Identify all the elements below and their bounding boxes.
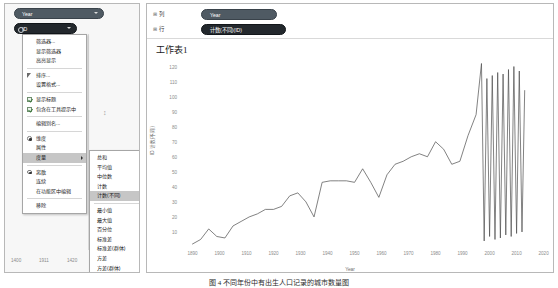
aggregation-menu-item[interactable]: 最小值 <box>90 206 140 216</box>
context-menu-item[interactable]: 包含在工具提示中 <box>23 105 86 115</box>
radio-selected-icon <box>27 136 32 141</box>
aggregation-menu-item[interactable]: 中位数 <box>90 172 140 182</box>
y-axis-tick: 70 <box>155 139 177 144</box>
x-axis-tick: 1940 <box>322 251 332 256</box>
context-menu-item[interactable]: 属性 <box>23 143 86 153</box>
menu-separator <box>27 165 82 166</box>
menu-separator <box>27 198 82 199</box>
context-menu-item-label: 包含在工具提示中 <box>36 106 76 112</box>
y-axis-tick: 40 <box>155 184 177 189</box>
context-menu-item-label: 设置格式... <box>36 81 60 87</box>
context-menu-item-label: 属性 <box>36 144 46 150</box>
aggregation-menu-item-label: 计数(不同) <box>97 192 120 198</box>
left-axis-tick: 1911 <box>39 258 49 263</box>
menu-separator <box>94 203 140 204</box>
tableau-screenshot: Year ID ↕ 筛选器...显示筛选器高亮显示排序...设置格式...显示标… <box>0 0 558 288</box>
left-panel: Year ID ↕ 筛选器...显示筛选器高亮显示排序...设置格式...显示标… <box>4 3 140 273</box>
aggregation-menu-item[interactable]: 标准差 <box>90 235 140 245</box>
aggregation-menu-item[interactable]: 方差 <box>90 254 140 264</box>
context-menu-item[interactable]: 显示标题 <box>23 95 86 105</box>
y-axis-tick: 20 <box>155 214 177 219</box>
context-menu-item[interactable]: 维度 <box>23 134 86 144</box>
y-axis-tick: 90 <box>155 109 177 114</box>
x-axis-tick: 1950 <box>349 251 359 256</box>
y-axis-tick: 60 <box>155 154 177 159</box>
aggregation-menu-item-label: 百分位 <box>97 226 112 232</box>
left-axis-tick: 1420 <box>67 258 77 263</box>
cursor-mark: ↕ <box>103 109 107 116</box>
context-menu-item[interactable]: 设置格式... <box>23 80 86 90</box>
context-menu-item-label: 筛选器... <box>36 38 55 44</box>
context-menu-item[interactable]: 移除 <box>23 201 86 211</box>
aggregation-menu-item[interactable]: 总和 <box>90 153 140 163</box>
context-menu-item[interactable]: 编辑别名... <box>23 119 86 129</box>
chevron-down-icon <box>67 27 71 29</box>
aggregation-menu-item-label: 方差(群体) <box>97 265 120 271</box>
aggregation-menu-item[interactable]: 最大值 <box>90 216 140 226</box>
checkmark-icon <box>27 107 32 112</box>
aggregation-menu-item-label: 最小值 <box>97 207 112 213</box>
y-axis-tick: 110 <box>155 79 177 84</box>
context-menu-item-label: 度量 <box>36 154 46 160</box>
worksheet-title: 工作表1 <box>156 43 188 56</box>
context-menu-item[interactable]: 在功能区中编辑 <box>23 187 86 197</box>
x-axis-tick: 1900 <box>214 251 224 256</box>
aggregation-menu-item-label: 中位数 <box>97 173 112 179</box>
y-axis-ticks: 102030405060708090100110120 <box>155 59 177 247</box>
x-axis-tick: 1990 <box>457 251 467 256</box>
y-axis-tick: 100 <box>155 94 177 99</box>
figure-caption: 图 4 不同年份中有出生人口记录的城市数量图 <box>0 277 558 287</box>
rows-shelf-label: ⊞行 <box>153 25 164 33</box>
aggregation-menu-item[interactable]: 计数(不同) <box>90 191 140 201</box>
x-axis-title: Year <box>147 267 553 272</box>
columns-pill[interactable]: Year <box>201 9 277 20</box>
x-axis-tick: 1910 <box>241 251 251 256</box>
left-axis-tick: 1400 <box>11 258 21 263</box>
aggregation-menu-item[interactable]: 方差(群体) <box>90 264 140 273</box>
y-axis-tick: 80 <box>155 124 177 129</box>
expand-icon[interactable]: ⊞ <box>153 26 157 32</box>
radio-selected-icon <box>27 170 32 175</box>
aggregation-menu-item[interactable]: 百分位 <box>90 225 140 235</box>
x-axis-tick: 1980 <box>430 251 440 256</box>
series-line <box>193 64 525 244</box>
x-axis-tick: 1930 <box>295 251 305 256</box>
rows-shelf[interactable]: ⊞行 计数(不同)(ID) <box>147 23 553 37</box>
aggregation-menu-item[interactable]: 平均值 <box>90 163 140 173</box>
x-axis-tick: 2000 <box>484 251 494 256</box>
chevron-down-icon <box>94 12 98 14</box>
x-axis-tick: 1960 <box>376 251 386 256</box>
rows-pill[interactable]: 计数(不同)(ID) <box>201 24 286 35</box>
context-menu-item-label: 在功能区中编辑 <box>36 188 71 194</box>
context-menu-item-label: 排序... <box>36 72 50 78</box>
aggregation-submenu: 总和平均值中位数计数计数(不同)最小值最大值百分位标准差标准差(群体)方差方差(… <box>89 150 140 273</box>
context-menu-item-label: 离散 <box>36 169 46 175</box>
checkmark-icon <box>27 97 32 102</box>
x-axis-tick: 1920 <box>268 251 278 256</box>
aggregation-menu-item[interactable]: 计数 <box>90 182 140 192</box>
measure-dot-icon <box>18 27 24 33</box>
context-menu-item[interactable]: 显示筛选器 <box>23 47 86 57</box>
y-axis-tick: 120 <box>155 64 177 69</box>
context-menu-item[interactable]: 排序... <box>23 71 86 81</box>
pill-id[interactable]: ID <box>14 23 77 34</box>
context-menu-item[interactable]: 离散 <box>23 168 86 178</box>
context-menu-item[interactable]: 度量 <box>23 153 86 163</box>
context-menu-item[interactable]: 连续 <box>23 177 86 187</box>
aggregation-menu-item[interactable]: 标准差(群体) <box>90 244 140 254</box>
pill-year[interactable]: Year <box>14 8 104 19</box>
context-menu-item[interactable]: 高亮显示 <box>23 56 86 66</box>
menu-separator <box>27 116 82 117</box>
context-menu: 筛选器...显示筛选器高亮显示排序...设置格式...显示标题包含在工具提示中编… <box>22 34 87 214</box>
expand-icon[interactable]: ⊞ <box>153 11 157 17</box>
worksheet-panel: ⊞列 Year ⊞行 计数(不同)(ID) 工作表1 ID 计数(不同) 102… <box>146 3 554 273</box>
context-menu-item[interactable]: 筛选器... <box>23 37 86 47</box>
context-menu-item-label: 高亮显示 <box>36 57 56 63</box>
columns-shelf[interactable]: ⊞列 Year <box>147 8 553 22</box>
y-axis-tick: 30 <box>155 199 177 204</box>
x-axis-tick: 1890 <box>187 251 197 256</box>
menu-separator <box>27 131 82 132</box>
context-menu-item-label: 维度 <box>36 135 46 141</box>
shelf-divider <box>147 38 553 39</box>
context-menu-item-label: 显示筛选器 <box>36 48 61 54</box>
